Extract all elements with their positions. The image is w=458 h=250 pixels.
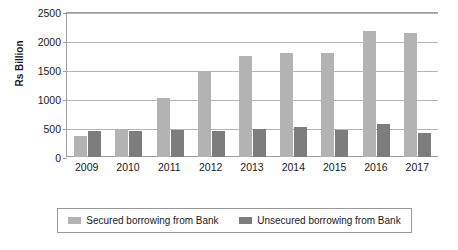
bar-secured-2014[interactable] — [280, 53, 293, 157]
bar-unsecured-2015[interactable] — [335, 130, 348, 157]
bar-unsecured-2010[interactable] — [129, 131, 142, 157]
y-tick-mark — [63, 158, 67, 159]
bar-group — [232, 13, 273, 157]
bar-group — [191, 13, 232, 157]
bar-group — [273, 13, 314, 157]
bar-group — [67, 13, 108, 157]
bar-secured-2015[interactable] — [321, 53, 334, 157]
legend-item-unsecured[interactable]: Unsecured borrowing from Bank — [239, 215, 400, 226]
legend-swatch-unsecured-icon — [239, 217, 252, 224]
x-tick-label: 2015 — [314, 161, 355, 173]
bar-secured-2011[interactable] — [157, 98, 170, 157]
bar-unsecured-2009[interactable] — [88, 131, 101, 157]
legend-item-secured[interactable]: Secured borrowing from Bank — [68, 215, 218, 226]
bar-secured-2009[interactable] — [74, 136, 87, 157]
y-tick-label: 2500 — [19, 8, 61, 19]
bar-secured-2010[interactable] — [115, 130, 128, 157]
bar-groups — [67, 13, 438, 157]
bar-unsecured-2013[interactable] — [253, 129, 266, 157]
y-tick-label: 500 — [19, 124, 61, 135]
bar-unsecured-2011[interactable] — [171, 130, 184, 157]
bar-secured-2013[interactable] — [239, 56, 252, 158]
bar-group — [356, 13, 397, 157]
bar-unsecured-2017[interactable] — [418, 133, 431, 157]
y-tick-label: 0 — [19, 153, 61, 164]
bar-group — [397, 13, 438, 157]
bar-secured-2016[interactable] — [363, 31, 376, 157]
legend-label-unsecured: Unsecured borrowing from Bank — [257, 215, 400, 226]
bar-group — [149, 13, 190, 157]
y-tick-label: 1000 — [19, 95, 61, 106]
bar-unsecured-2012[interactable] — [212, 131, 225, 157]
bar-secured-2017[interactable] — [404, 33, 417, 157]
x-tick-label: 2017 — [397, 161, 438, 173]
x-tick-label: 2010 — [107, 161, 148, 173]
x-tick-label: 2012 — [190, 161, 231, 173]
plot-area: 05001000150020002500 — [66, 12, 438, 157]
y-tick-label: 2000 — [19, 37, 61, 48]
bar-secured-2012[interactable] — [198, 71, 211, 157]
bar-unsecured-2014[interactable] — [294, 127, 307, 157]
x-tick-label: 2011 — [149, 161, 190, 173]
x-tick-label: 2016 — [355, 161, 396, 173]
x-tick-label: 2013 — [231, 161, 272, 173]
bar-unsecured-2016[interactable] — [377, 124, 390, 157]
x-tick-label: 2009 — [66, 161, 107, 173]
chart-legend: Secured borrowing from Bank Unsecured bo… — [57, 208, 412, 233]
y-tick-label: 1500 — [19, 66, 61, 77]
bar-group — [108, 13, 149, 157]
bar-chart: Rs Billion 05001000150020002500 20092010… — [0, 0, 458, 250]
x-tick-label: 2014 — [273, 161, 314, 173]
x-axis-labels: 200920102011201220132014201520162017 — [66, 161, 438, 173]
legend-label-secured: Secured borrowing from Bank — [86, 215, 218, 226]
legend-swatch-secured-icon — [68, 217, 81, 224]
bar-group — [314, 13, 355, 157]
